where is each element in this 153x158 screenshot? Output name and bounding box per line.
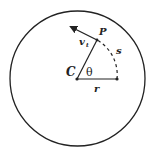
label-s: s [116,45,122,56]
end-dot [115,77,118,80]
arc-s-dashed [97,40,117,79]
label-p: P [98,26,107,37]
label-theta: θ [86,66,93,79]
point-p-dot [96,39,99,42]
label-r: r [94,83,100,94]
circular-motion-diagram: C P v t s θ r [0,0,153,158]
label-v: v [79,36,85,47]
label-v-sub: t [86,41,89,48]
label-c: C [66,65,76,79]
diagram: C P v t s θ r [0,0,153,158]
center-dot [75,77,78,80]
